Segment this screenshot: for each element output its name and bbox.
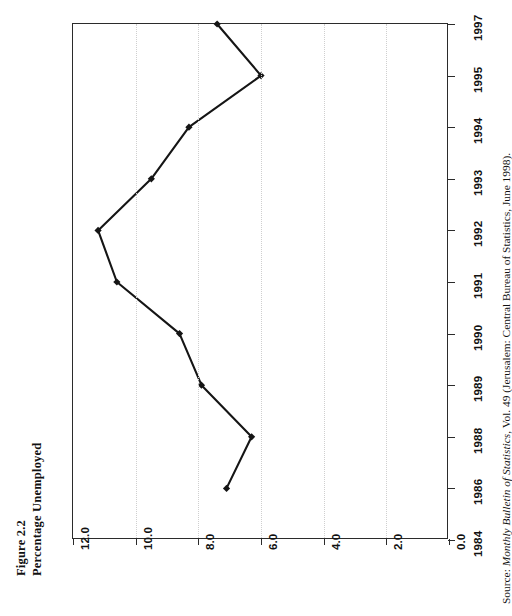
category-tick-label: 1994: [471, 118, 484, 144]
category-tick-label: 1992: [471, 221, 484, 247]
value-tick-label: 4.0: [329, 534, 342, 550]
source-note: Source: Monthly Bulletin of Statistics, …: [500, 153, 512, 604]
page-title: Percentage Unemployed: [30, 276, 46, 576]
value-gridline: [198, 24, 199, 538]
source-publication: Monthly Bulletin of Statistics: [500, 434, 512, 567]
value-tick: [136, 539, 137, 545]
category-tick-label: 1990: [471, 324, 484, 350]
category-tick-label: 1993: [471, 170, 484, 196]
source-prefix: Source:: [500, 569, 512, 604]
value-tick-label: 10.0: [141, 527, 154, 550]
category-tick-label: 1984: [471, 531, 484, 557]
value-tick: [73, 539, 74, 545]
value-tick-label: 8.0: [203, 534, 216, 550]
value-gridline: [324, 24, 325, 538]
chart-plot-area: 12.010.08.06.04.02.00.019841986198819891…: [72, 23, 448, 539]
category-tick: [448, 282, 455, 283]
category-tick-label: 1991: [471, 273, 484, 299]
data-point-marker: [223, 485, 230, 492]
category-tick-label: 1988: [471, 428, 484, 454]
value-tick-label: 6.0: [266, 534, 279, 550]
figure-title-block: Figure 2.2 Percentage Unemployed: [14, 276, 45, 576]
category-tick: [448, 540, 455, 541]
value-tick-label: 0.0: [454, 534, 467, 550]
category-tick: [448, 385, 455, 386]
value-tick-label: 12.0: [78, 527, 91, 550]
category-tick-label: 1986: [471, 479, 484, 505]
value-tick: [324, 539, 325, 545]
category-tick: [448, 76, 455, 77]
category-tick: [448, 488, 455, 489]
source-suffix: , Vol. 49 (Jerusalem: Central Bureau of …: [500, 153, 512, 434]
value-gridline: [261, 24, 262, 538]
category-tick: [448, 179, 455, 180]
category-tick: [448, 334, 455, 335]
category-tick-label: 1989: [471, 376, 484, 402]
value-tick: [386, 539, 387, 545]
value-tick-label: 2.0: [391, 534, 404, 550]
value-gridline: [386, 24, 387, 538]
figure-label: Figure 2.2: [14, 276, 30, 576]
category-tick-label: 1995: [471, 66, 484, 92]
category-tick-label: 1997: [471, 15, 484, 41]
category-tick: [448, 437, 455, 438]
category-tick: [448, 230, 455, 231]
value-tick: [261, 539, 262, 545]
value-gridline: [136, 24, 137, 538]
figure-page: Figure 2.2 Percentage Unemployed 12.010.…: [0, 0, 512, 616]
category-tick: [448, 24, 455, 25]
data-line: [98, 24, 261, 488]
value-tick: [198, 539, 199, 545]
category-tick: [448, 127, 455, 128]
